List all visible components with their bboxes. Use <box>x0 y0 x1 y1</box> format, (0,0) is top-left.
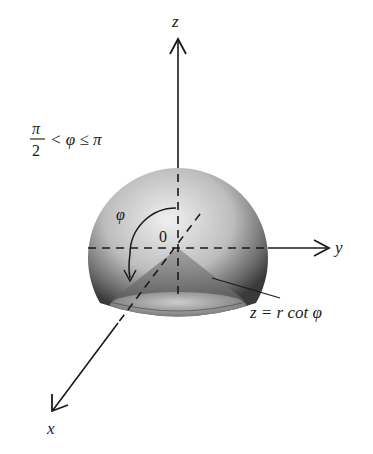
y-axis-label: y <box>333 238 343 257</box>
phi-label: φ <box>116 206 125 224</box>
phi-range-condition: π 2 < φ ≤ π <box>30 120 102 159</box>
z-axis-label: z <box>171 12 179 31</box>
origin-label: 0 <box>159 228 167 245</box>
fraction-denominator: 2 <box>32 142 40 159</box>
fraction-numerator: π <box>32 120 41 137</box>
x-axis-label: x <box>46 419 55 438</box>
condition-inequality: < φ ≤ π <box>50 130 102 149</box>
diagram-canvas: z y x 0 φ π 2 < φ ≤ π z = r cot φ <box>0 0 373 454</box>
base-opening <box>110 292 246 318</box>
surface-equation-label: z = r cot φ <box>249 303 322 322</box>
